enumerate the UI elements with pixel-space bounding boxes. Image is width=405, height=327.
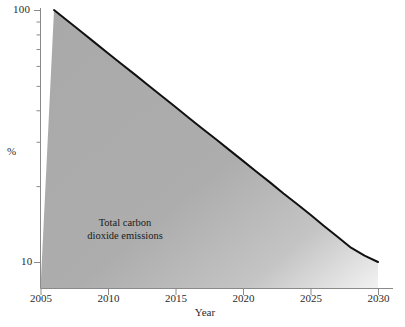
- x-tick-label-2025: 2025: [300, 292, 322, 304]
- annotation-line-1: Total carbon: [87, 216, 163, 229]
- x-tick-label-2010: 2010: [98, 292, 120, 304]
- annotation-line-2: dioxide emissions: [87, 229, 163, 242]
- x-tick-label-2005: 2005: [30, 292, 52, 304]
- x-axis-ticks: [41, 289, 379, 296]
- x-tick-label-2030: 2030: [368, 292, 390, 304]
- x-tick-label-2015: 2015: [165, 292, 187, 304]
- x-tick-label-2020: 2020: [233, 292, 255, 304]
- x-axis-title: Year: [195, 306, 215, 318]
- y-axis-major-ticks: [34, 11, 41, 263]
- y-tick-label-10: 10: [21, 255, 32, 267]
- y-axis-minor-ticks: [37, 22, 41, 187]
- chart-figure: 100 10 % 200520102015202020252030 Year T…: [0, 0, 405, 327]
- y-tick-label-100: 100: [13, 3, 30, 15]
- series-annotation: Total carbon dioxide emissions: [87, 216, 163, 242]
- emissions-area-fill: [41, 10, 379, 289]
- chart-plot-area: [0, 0, 405, 327]
- y-axis-title: %: [7, 145, 16, 157]
